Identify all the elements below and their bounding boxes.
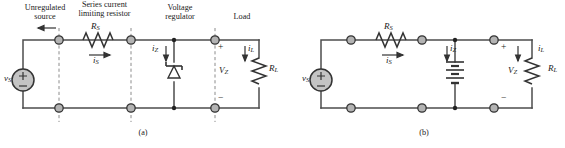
node-bottom-3 [211,104,219,112]
node-top-2 [127,36,135,44]
label-il-a: iL [248,44,254,54]
heading-line1: Load [218,12,266,21]
resistor-rl-symbol [525,58,539,84]
label-il-b: iL [538,44,544,54]
label-is-b: iS [386,56,392,66]
label-rl-a: RL [269,64,278,74]
label-is-b-sub: S [389,58,392,65]
arrow-is-head [104,53,110,58]
label-vs-b-sub: S [306,76,309,83]
terminal-minus-b: − [501,94,506,104]
node-top-3 [490,36,498,44]
terminal-minus-a: − [218,94,223,104]
label-vs-a-sub: S [8,76,11,83]
battery-symbol [446,62,464,83]
arrow-iz-head [445,55,450,61]
arrow-source-head [38,26,44,31]
zener-diode-symbol [166,62,182,78]
panel-label-a: (a) [123,129,163,138]
node-group [55,36,219,112]
label-vz-a-sub: Z [225,68,229,75]
label-rs-a: RS [91,22,100,32]
node-bottom-3 [490,104,498,112]
terminal-plus-a: + [218,43,223,53]
heading-series-current-limiting-resistor: Series current limiting resistor [62,0,147,19]
node-bottom-2 [127,104,135,112]
voltage-source-vs [12,69,34,91]
junction-dot-bottom [172,106,176,110]
node-top-1 [55,36,63,44]
label-rl-b: RL [548,64,557,74]
label-iz-a-sub: Z [155,46,159,53]
node-bottom-2 [418,104,426,112]
label-iz-b-sub: Z [453,46,457,53]
figure-container: Unregulated source Series current limiti… [0,0,565,148]
label-vs-a: vS [4,74,11,84]
terminal-plus-b: + [501,43,506,53]
label-rl-b-sub: L [554,66,558,73]
label-iz-a: iZ [152,44,158,54]
node-group [347,36,498,112]
heading-line2: regulator [150,12,210,21]
label-vz-a: VZ [219,66,228,76]
heading-voltage-regulator: Voltage regulator [150,3,210,22]
arrow-il-head [516,55,521,61]
label-il-b-sub: L [541,46,545,53]
junction-dot-bottom [453,106,457,110]
label-vs-b: vS [302,74,309,84]
label-iz-b: iZ [450,44,456,54]
label-rs-b-sub: S [390,24,393,31]
label-rl-a-sub: L [275,66,279,73]
arrow-is-head [397,53,403,58]
junction-dot-top [453,38,457,42]
node-bottom-1 [55,104,63,112]
heading-line2: limiting resistor [62,9,147,18]
label-rs-b: RS [384,22,393,32]
heading-line1: Series current [62,0,147,9]
label-is-a: iS [93,56,99,66]
arrow-iz-head [164,55,169,61]
arrow-il-head [243,55,248,61]
junction-dot-top [172,38,176,42]
label-vz-b: VZ [508,66,517,76]
heading-load: Load [218,12,266,21]
node-bottom-1 [347,104,355,112]
node-top-2 [418,36,426,44]
resistor-rl-symbol [252,58,266,84]
panel-label-b: (b) [404,129,444,138]
circuit-panel-b [283,0,565,148]
label-rs-a-sub: S [97,24,100,31]
node-top-1 [347,36,355,44]
circuit-panel-a [0,0,283,148]
label-il-a-sub: L [251,46,255,53]
label-vz-b-sub: Z [514,68,518,75]
heading-line1: Voltage [150,3,210,12]
label-is-a-sub: S [96,58,99,65]
voltage-source-vs [310,69,332,91]
